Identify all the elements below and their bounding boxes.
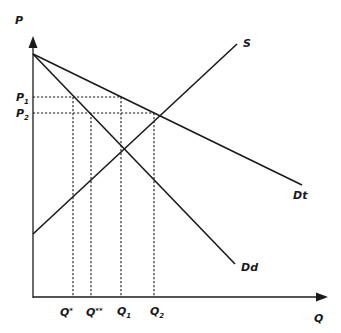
p2-label: P2 xyxy=(16,107,29,122)
quantity-axis-arrow-icon xyxy=(316,293,328,302)
quantity-axis-label: Q xyxy=(314,312,323,325)
price-axis-label: P xyxy=(15,14,23,27)
supply-curve-label: S xyxy=(243,37,251,50)
domestic-demand-curve xyxy=(33,54,235,264)
supply-demand-diagram: P Q S Dt Dd P1 P2 Q* Q** Q1 Q2 xyxy=(0,0,341,333)
domestic-demand-curve-label: Dd xyxy=(241,261,258,274)
q2-label: Q2 xyxy=(150,305,164,320)
total-demand-curve-label: Dt xyxy=(293,189,308,202)
q1-label: Q1 xyxy=(117,305,131,320)
price-axis-arrow-icon xyxy=(29,36,38,48)
q-star-label: Q* xyxy=(60,306,73,319)
p1-label: P1 xyxy=(16,91,29,106)
q-double-star-label: Q** xyxy=(86,306,103,319)
